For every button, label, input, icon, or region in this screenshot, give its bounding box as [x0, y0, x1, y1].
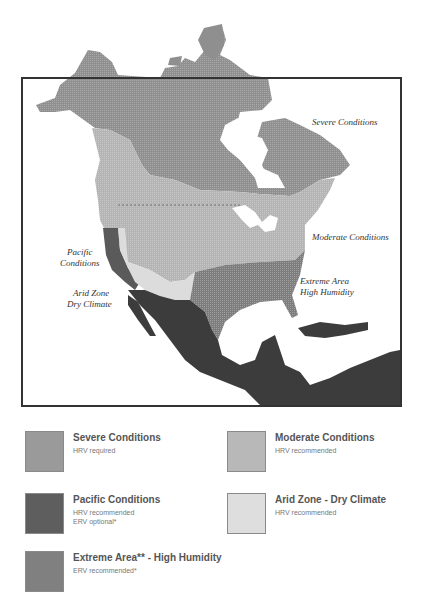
legend-title: Arid Zone - Dry Climate	[275, 494, 386, 505]
swatch-severe	[25, 431, 64, 472]
label-arid-2: Dry Climate	[67, 299, 112, 309]
label-extreme-1: Extreme Area	[300, 276, 349, 286]
swatch-moderate	[227, 431, 266, 472]
legend-item-moderate: Moderate Conditions HRV recommended	[227, 431, 424, 481]
legend-title: Severe Conditions	[73, 432, 161, 443]
legend-subtitle: HRV required	[73, 446, 115, 455]
legend-title: Pacific Conditions	[73, 494, 160, 505]
arctic-island-small	[168, 56, 182, 66]
label-pacific-2: Conditions	[60, 258, 100, 268]
legend-item-arid: Arid Zone - Dry Climate HRV recommended	[227, 493, 424, 543]
legend-subtitle-2: ERV optional*	[73, 517, 116, 526]
legend-item-pacific: Pacific Conditions HRV recommended ERV o…	[25, 493, 225, 543]
legend-subtitle: ERV recommended*	[73, 566, 137, 575]
legend-subtitle: HRV recommended	[275, 446, 336, 455]
label-pacific-1: Pacific	[67, 247, 93, 257]
legend-title: Moderate Conditions	[275, 432, 374, 443]
legend-item-extreme: Extreme Area** - High Humidity ERV recom…	[25, 551, 285, 601]
label-severe: Severe Conditions	[312, 117, 377, 127]
legend-title: Extreme Area** - High Humidity	[73, 552, 222, 563]
legend-item-severe: Severe Conditions HRV required	[25, 431, 225, 481]
label-arid-1: Arid Zone	[73, 288, 109, 298]
legend-subtitle: HRV recommended	[73, 508, 134, 517]
swatch-extreme	[25, 551, 64, 592]
legend-subtitle: HRV recommended	[275, 508, 336, 517]
swatch-arid	[227, 493, 266, 534]
label-moderate: Moderate Conditions	[312, 232, 389, 242]
climate-map: Severe Conditions Moderate Conditions Ex…	[0, 0, 424, 420]
swatch-pacific	[25, 493, 64, 534]
label-extreme-2: High Humidity	[300, 287, 354, 297]
